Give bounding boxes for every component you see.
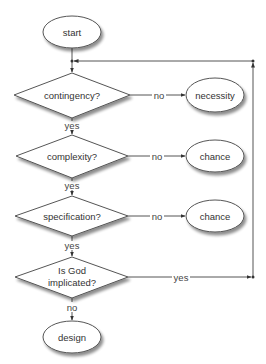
- edge-label-god-yes: yes: [174, 272, 189, 283]
- label-god-line1: Is God: [58, 265, 86, 276]
- label-contingency: contingency?: [44, 90, 100, 101]
- edge-label-specification-yes: yes: [65, 240, 80, 251]
- label-necessity: necessity: [195, 90, 235, 101]
- edge-label-specification-no: no: [152, 211, 163, 222]
- label-chance-1: chance: [200, 151, 231, 162]
- label-start: start: [63, 27, 82, 38]
- edge-label-contingency-yes: yes: [65, 120, 80, 131]
- edge-label-complexity-no: no: [152, 151, 163, 162]
- edge-label-complexity-yes: yes: [65, 180, 80, 191]
- label-specification: specification?: [43, 211, 101, 222]
- label-god-line2: implicated?: [48, 277, 96, 288]
- edge-label-contingency-no: no: [154, 90, 165, 101]
- flowchart-canvas: no yes no yes no yes yes no start contin…: [0, 0, 266, 364]
- edge-label-god-no: no: [67, 302, 78, 313]
- junction-dot: [71, 60, 74, 63]
- junction-dot: [252, 276, 255, 279]
- label-chance-2: chance: [200, 211, 231, 222]
- label-design: design: [58, 332, 86, 343]
- junction-dot: [252, 60, 255, 63]
- label-complexity: complexity?: [47, 151, 97, 162]
